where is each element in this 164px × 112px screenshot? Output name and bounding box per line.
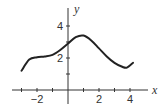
y-tick-label: 4: [57, 20, 63, 32]
tick-labels: −22424: [31, 20, 133, 105]
tick-marks: [22, 26, 131, 92]
x-tick-label: 2: [96, 93, 102, 105]
y-axis-label: y: [73, 2, 80, 16]
function-graph: −22424 x y: [0, 0, 164, 112]
x-tick-label: 4: [127, 93, 133, 105]
x-tick-label: −2: [31, 93, 44, 105]
function-curve: [22, 35, 134, 70]
y-tick-label: 2: [57, 52, 63, 64]
x-axis-label: x: [151, 83, 158, 97]
axes: [12, 8, 148, 104]
